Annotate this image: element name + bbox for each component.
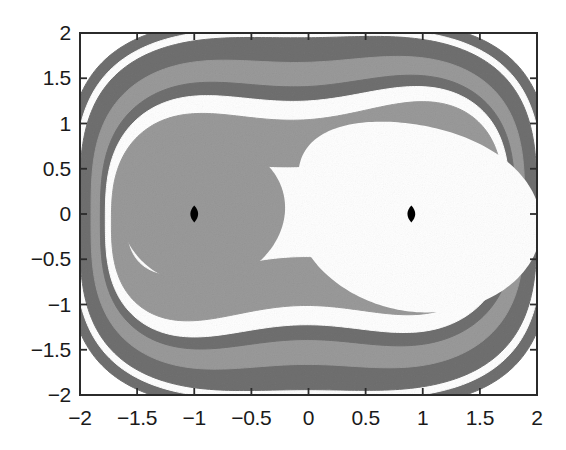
y-tick-label-4: 0: [60, 202, 71, 226]
y-tick-label-0: −2: [48, 383, 71, 407]
x-tick-label-1: −1.5: [117, 406, 157, 430]
y-tick-label-2: −1: [48, 293, 71, 317]
contour-plot-figure: −2−1.5−1−0.500.511.52 −2−1.5−1−0.500.511…: [0, 0, 566, 450]
x-tick-label-5: 0.5: [351, 406, 379, 430]
y-tick-label-8: 2: [60, 21, 71, 45]
x-tick-label-8: 2: [531, 406, 542, 430]
y-tick-label-6: 1: [60, 112, 71, 136]
x-tick-label-2: −1: [183, 406, 206, 430]
y-tick-label-5: 0.5: [43, 157, 71, 181]
y-tick-label-1: −1.5: [31, 338, 71, 362]
x-tick-label-3: −0.5: [231, 406, 271, 430]
y-tick-label-3: −0.5: [31, 247, 71, 271]
plot-canvas: [0, 0, 566, 450]
x-tick-label-4: 0: [303, 406, 314, 430]
x-tick-label-6: 1: [417, 406, 428, 430]
contour-band-group: [66, 19, 550, 410]
x-tick-label-7: 1.5: [466, 406, 494, 430]
y-tick-label-7: 1.5: [43, 66, 71, 90]
x-tick-label-0: −2: [68, 406, 91, 430]
